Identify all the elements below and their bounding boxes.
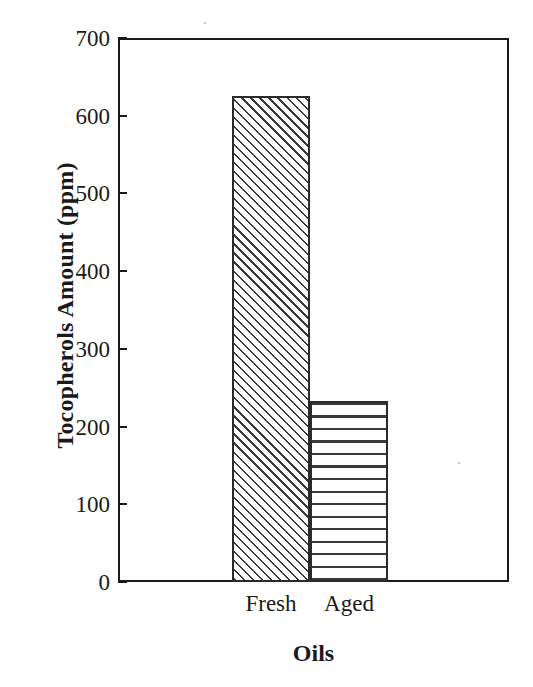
bars-layer [118, 38, 509, 582]
y-tick-label: 400 [28, 260, 110, 283]
y-tick-label: 600 [28, 104, 110, 127]
y-tick-label: 500 [28, 182, 110, 205]
y-tick-label: 700 [28, 27, 110, 50]
y-tick-label: 200 [28, 415, 110, 438]
bar-fresh [232, 96, 310, 582]
y-axis-title: Tocopherols Amount (ppm) [52, 76, 79, 536]
y-tick-label: 300 [28, 337, 110, 360]
y-tick-label: 100 [28, 493, 110, 516]
bar-chart-figure: Tocopherols Amount (ppm) 010020030040050… [0, 0, 533, 687]
scan-speck [204, 22, 206, 24]
x-axis-title: Oils [118, 640, 509, 667]
scan-speck [458, 462, 460, 464]
y-tick-label: 0 [28, 571, 110, 594]
x-tick-label-aged: Aged [289, 592, 409, 615]
bar-aged [310, 401, 388, 582]
